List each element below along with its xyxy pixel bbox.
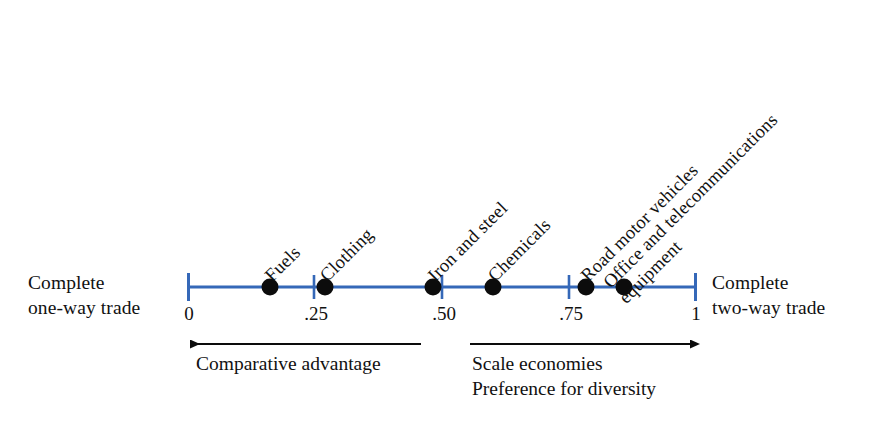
tick-label-075: .75 <box>559 303 583 325</box>
scale-economies-text: Scale economies <box>472 352 656 377</box>
office-telecom-label-line1: Office and telecommunications <box>599 110 781 292</box>
preference-for-diversity-text: Preference for diversity <box>472 377 656 402</box>
category-label-fuels: Fuels <box>260 241 305 286</box>
axis-right-caption-line2: two-way trade <box>712 296 825 321</box>
axis-left-caption-line1: Complete <box>28 271 140 296</box>
comparative-advantage-annotation: Comparative advantage <box>196 352 381 377</box>
figure-canvas: Complete one-way trade Complete two-way … <box>0 0 888 431</box>
axis-right-endpoint-caption: Complete two-way trade <box>712 271 825 321</box>
tick-label-050: .50 <box>432 303 456 325</box>
comparative-advantage-text: Comparative advantage <box>196 352 381 377</box>
axis-right-caption-line1: Complete <box>712 271 825 296</box>
axis-left-caption-line2: one-way trade <box>28 296 140 321</box>
tick-label-1: 1 <box>691 303 701 325</box>
tick-label-025: .25 <box>304 303 328 325</box>
scale-economies-annotation: Scale economies Preference for diversity <box>472 352 656 402</box>
tick-label-0: 0 <box>184 303 194 325</box>
category-label-office-and-telecommunications-equipment: Office and telecommunications equipment <box>599 44 864 309</box>
axis-left-endpoint-caption: Complete one-way trade <box>28 271 140 321</box>
category-label-clothing: Clothing <box>315 224 378 287</box>
number-line-axis <box>0 0 888 431</box>
